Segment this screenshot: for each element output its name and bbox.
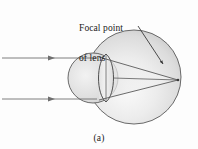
focal-point-label: Focal point of lens bbox=[79, 3, 123, 83]
optics-figure-panel-a: Focal point of lens (a) bbox=[0, 0, 198, 149]
figure-caption: (a) bbox=[0, 133, 198, 143]
focal-point-label-line1: Focal point bbox=[79, 23, 123, 33]
incident-ray-lower-arrowhead bbox=[48, 96, 55, 101]
focal-point-marker bbox=[177, 79, 180, 82]
incident-ray-upper-arrowhead bbox=[48, 55, 55, 60]
focal-point-label-line2: of lens bbox=[79, 53, 123, 63]
